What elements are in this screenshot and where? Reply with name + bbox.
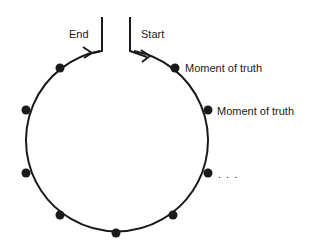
touchpoint-dots	[22, 64, 213, 238]
moment-of-truth-label-2: Moment of truth	[217, 105, 294, 117]
dot	[112, 229, 121, 238]
dot	[56, 211, 65, 220]
dot	[204, 169, 213, 178]
moment-of-truth-label-1: Moment of truth	[185, 62, 262, 74]
end-line	[88, 17, 102, 54]
dot	[171, 64, 180, 73]
dot	[56, 64, 65, 73]
start-label: Start	[141, 28, 164, 40]
dot	[22, 169, 31, 178]
moments-of-truth-cycle-diagram: End Start Moment of truth Moment of trut…	[0, 0, 322, 248]
ellipsis-label: . . .	[218, 168, 238, 180]
end-label: End	[69, 28, 89, 40]
dot	[22, 106, 31, 115]
dot	[169, 211, 178, 220]
dot	[204, 106, 213, 115]
cycle-arc	[26, 51, 208, 231]
